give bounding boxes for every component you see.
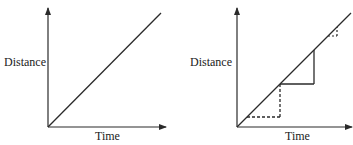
left-distance-time-line — [48, 13, 161, 127]
right-y-axis-label: Distance — [190, 55, 232, 70]
left-chart — [48, 8, 166, 127]
right-chart — [237, 8, 352, 127]
right-x-axis-label: Time — [285, 129, 310, 144]
left-x-axis-label: Time — [95, 129, 120, 144]
left-y-axis-label: Distance — [4, 55, 46, 70]
right-distance-time-line — [237, 13, 351, 127]
diagram-canvas — [0, 0, 353, 145]
